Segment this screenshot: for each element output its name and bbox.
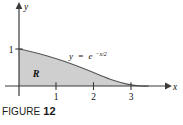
x-tick-label-1: 1: [54, 92, 59, 102]
figure-caption-number: 12: [43, 105, 55, 117]
region-label-R: R: [32, 68, 40, 79]
x-tick-label-3: 3: [129, 92, 134, 102]
figure-caption: FIGURE 12: [2, 105, 182, 121]
x-axis-arrowhead: [165, 83, 172, 90]
equation-lhs: y: [68, 51, 73, 61]
y-axis-arrowhead: [16, 2, 23, 9]
x-tick-label-2: 2: [91, 92, 96, 102]
figure-caption-label: FIGURE: [2, 106, 40, 117]
curve-equation-label: y = e −x/2: [68, 50, 107, 61]
y-axis-label: y: [23, 2, 29, 12]
equation-exponent: −x/2: [95, 50, 107, 57]
y-tick-label-1: 1: [9, 45, 14, 55]
x-axis-label: x: [172, 82, 178, 92]
equation-equals: =: [78, 51, 83, 61]
equation-base: e: [89, 51, 93, 61]
figure-container: 1 2 3 1 x y R y = e −x/2 FIGURE 12: [0, 0, 183, 125]
graph-plot: 1 2 3 1 x y R y = e −x/2: [0, 0, 183, 104]
